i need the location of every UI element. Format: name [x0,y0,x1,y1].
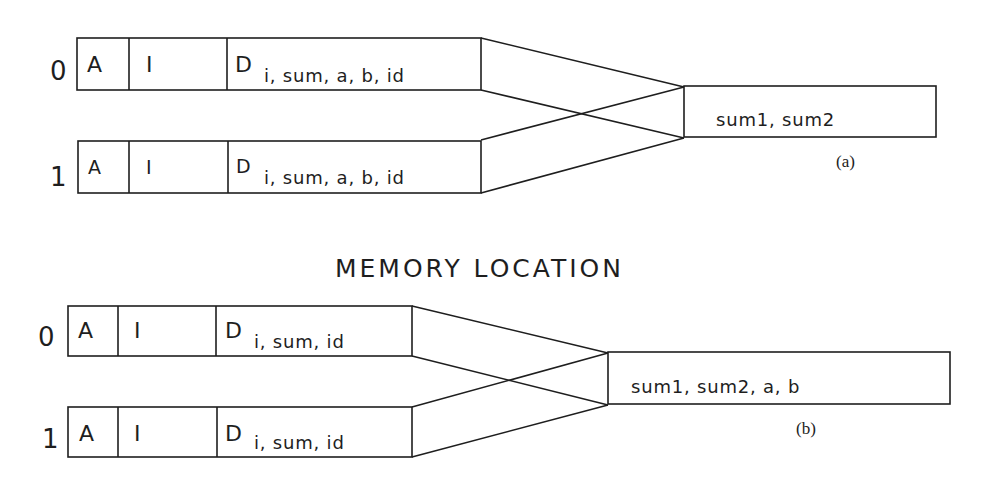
segment-a-label: A [79,421,94,446]
shared-vars-label: sum1, sum2 [716,109,835,130]
segment-d-label: D [235,52,252,77]
segment-a-label: A [78,318,93,343]
connector-line [481,38,684,87]
panel-caption: (a) [836,152,855,171]
panel-a: 0 A I D i, sum, a, b, id 1 A I D i, sum,… [50,38,936,193]
process-index-label: 1 [50,162,67,192]
process-index-label: 0 [50,56,67,86]
panel-b: 0 A I D i, sum, id 1 A I D i, sum, id su… [38,306,950,457]
segment-i-label: I [134,421,141,446]
connector-line [412,306,608,353]
segment-d-vars: i, sum, id [254,331,345,352]
connector-line [481,87,684,140]
panel-b-connectors [412,306,608,457]
panel-caption: (b) [796,419,816,438]
panel-b-shared-memory: sum1, sum2, a, b [608,352,950,404]
connector-line [412,405,608,457]
segment-d-label: D [225,318,242,343]
segment-d-label: D [225,421,242,446]
panel-b-process-0: 0 A I D i, sum, id [38,306,412,356]
segment-d-vars: i, sum, id [254,432,345,453]
memory-location-diagram: 0 A I D i, sum, a, b, id 1 A I D i, sum,… [0,0,986,493]
segment-d-vars: i, sum, a, b, id [264,167,405,188]
shared-vars-label: sum1, sum2, a, b [631,376,800,397]
panel-a-connectors [481,38,684,193]
process-index-label: 0 [38,322,55,352]
diagram-title: MEMORY LOCATION [335,254,624,283]
segment-i-label: I [146,156,152,178]
segment-d-vars: i, sum, a, b, id [264,65,405,86]
segment-d-label: D [236,155,251,177]
segment-a-label: A [88,156,101,178]
segment-i-label: I [134,318,141,343]
segment-a-label: A [87,52,102,77]
panel-a-process-1: 1 A I D i, sum, a, b, id [50,141,481,193]
process-index-label: 1 [42,424,59,454]
panel-a-shared-memory: sum1, sum2 [684,86,936,137]
panel-b-process-1: 1 A I D i, sum, id [42,407,412,457]
segment-i-label: I [146,52,153,77]
connector-line [412,353,608,407]
panel-a-process-0: 0 A I D i, sum, a, b, id [50,38,481,90]
connector-line [481,138,684,193]
